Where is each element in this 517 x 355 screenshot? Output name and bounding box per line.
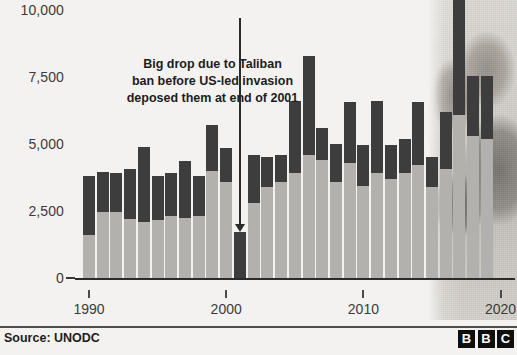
bar-2018 xyxy=(467,76,479,278)
bar-segment-lower xyxy=(412,165,424,278)
bar-segment-lower xyxy=(179,218,191,278)
bar-segment-upper xyxy=(440,112,452,170)
bar-segment-upper xyxy=(110,173,122,212)
bar-2007 xyxy=(316,128,328,278)
bar-2001 xyxy=(234,232,246,278)
bar-segment-upper xyxy=(371,101,383,173)
bar-2013 xyxy=(399,139,411,278)
bar-segment-lower xyxy=(467,136,479,278)
x-axis-label: 1990 xyxy=(73,301,104,317)
annotation-line-2: ban before US-led invasion xyxy=(110,73,315,90)
bar-segment-lower xyxy=(275,182,287,278)
bar-1999 xyxy=(206,125,218,278)
annotation-arrow-head xyxy=(235,224,245,232)
bar-2015 xyxy=(426,157,438,278)
bar-segment-upper xyxy=(399,139,411,174)
annotation-arrow-line xyxy=(239,18,241,224)
bar-1998 xyxy=(193,176,205,278)
x-axis-tick xyxy=(225,290,227,298)
bar-segment-lower xyxy=(289,173,301,278)
bar-segment-lower xyxy=(426,187,438,278)
bar-segment-upper xyxy=(179,161,191,217)
bar-segment-lower xyxy=(481,139,493,278)
bar-segment-upper xyxy=(481,76,493,139)
bar-2017 xyxy=(453,0,465,278)
bar-segment-lower xyxy=(124,219,136,278)
bar-segment-upper xyxy=(220,148,232,182)
y-axis-tick xyxy=(66,277,75,279)
bar-1992 xyxy=(110,173,122,278)
bar-segment-upper xyxy=(275,155,287,182)
bar-segment-upper xyxy=(97,172,109,212)
chart-container: 02,5005,0007,50010,0001990200020102020 B… xyxy=(0,0,517,355)
bar-1993 xyxy=(124,169,136,278)
bar-segment-lower xyxy=(138,222,150,278)
bar-2004 xyxy=(275,155,287,278)
bar-segment-upper xyxy=(83,176,95,235)
bar-1991 xyxy=(97,172,109,278)
annotation-line-1: Big drop due to Taliban xyxy=(110,56,315,73)
annotation-line-3: deposed them at end of 2001 xyxy=(110,90,315,107)
bar-segment-lower xyxy=(371,173,383,278)
bar-2012 xyxy=(385,145,397,278)
bar-2009 xyxy=(344,102,356,278)
bar-1996 xyxy=(165,173,177,278)
bar-segment-upper xyxy=(344,102,356,162)
bar-2002 xyxy=(248,155,260,278)
bar-segment-lower xyxy=(248,203,260,278)
bar-segment-upper xyxy=(248,155,260,203)
bbc-letter-2: B xyxy=(478,330,495,348)
bar-2016 xyxy=(440,112,452,278)
bar-2014 xyxy=(412,102,424,278)
bar-segment-upper xyxy=(261,157,273,186)
x-axis-label: 2000 xyxy=(211,301,242,317)
bbc-logo: B B C xyxy=(458,330,514,348)
y-axis-label: 0 xyxy=(2,270,64,286)
bar-segment-lower xyxy=(97,212,109,278)
bar-segment-upper xyxy=(330,144,342,182)
bar-segment-lower xyxy=(303,155,315,278)
x-axis-label: 2010 xyxy=(348,301,379,317)
bar-2005 xyxy=(289,101,301,278)
bar-2000 xyxy=(220,148,232,278)
bar-segment-lower xyxy=(440,169,452,278)
bar-segment-upper xyxy=(426,157,438,186)
bar-segment-lower xyxy=(193,216,205,278)
bar-1990 xyxy=(83,176,95,278)
x-axis-label: 2020 xyxy=(485,301,516,317)
bar-segment-lower xyxy=(165,216,177,278)
bar-segment-lower xyxy=(399,173,411,278)
bar-segment-upper xyxy=(289,101,301,173)
bar-segment-lower xyxy=(261,187,273,278)
x-axis-line xyxy=(75,278,515,280)
bar-segment-upper xyxy=(138,147,150,222)
bar-segment-upper xyxy=(357,145,369,185)
bar-2003 xyxy=(261,157,273,278)
bar-segment-upper xyxy=(385,145,397,179)
bar-segment-lower xyxy=(357,186,369,278)
y-axis-label: 5,000 xyxy=(2,136,64,152)
plot-area: 02,5005,0007,50010,0001990200020102020 xyxy=(0,0,517,320)
bar-segment-upper xyxy=(412,102,424,165)
bar-2008 xyxy=(330,144,342,278)
bar-segment-upper xyxy=(124,169,136,219)
bar-segment-lower xyxy=(453,115,465,278)
bar-segment-lower xyxy=(220,182,232,278)
bar-segment-upper xyxy=(165,173,177,216)
bar-segment-lower xyxy=(344,163,356,278)
bar-2010 xyxy=(357,145,369,278)
bar-segment-lower xyxy=(152,220,164,278)
y-axis-label: 10,000 xyxy=(2,2,64,18)
bar-segment-upper xyxy=(193,176,205,216)
x-axis-tick xyxy=(88,290,90,298)
bar-segment-lower xyxy=(316,160,328,278)
x-axis-tick xyxy=(362,290,364,298)
bar-segment-upper xyxy=(234,232,246,278)
bar-segment-upper xyxy=(316,128,328,160)
bar-1994 xyxy=(138,147,150,278)
bar-segment-upper xyxy=(152,176,164,220)
bar-2011 xyxy=(371,101,383,278)
bar-segment-upper xyxy=(206,125,218,171)
bar-segment-lower xyxy=(83,235,95,278)
bar-1995 xyxy=(152,176,164,278)
